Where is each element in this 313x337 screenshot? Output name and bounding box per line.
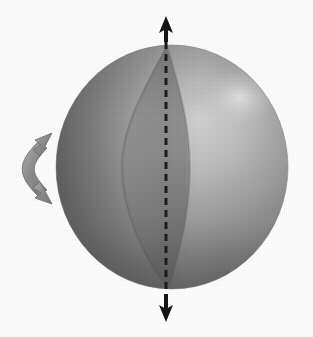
axis-arrow-down: [159, 294, 173, 322]
axis-arrow-up: [159, 16, 173, 42]
figure-root: Rotating sphere with polar axis and shad…: [0, 0, 313, 337]
sphere-group: [56, 45, 288, 289]
sphere-highlight: [204, 70, 276, 126]
sphere-rotation-diagram: Rotating sphere with polar axis and shad…: [0, 0, 313, 337]
rotation-arrow: [22, 133, 52, 204]
